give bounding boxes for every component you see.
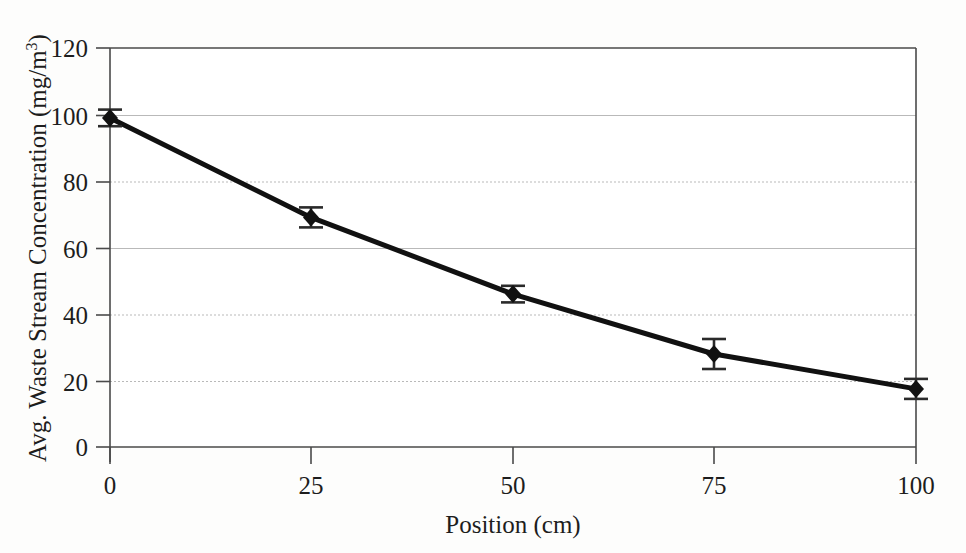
xtick-label-0: 0	[104, 472, 117, 499]
y-axis-title-close-paren: )	[24, 34, 52, 42]
chart-figure: 120 100 80 60 40 20 0 0 25 50 75 100 Pos…	[0, 0, 966, 553]
xtick-label-50: 50	[501, 472, 526, 499]
x-axis-title: Position (cm)	[445, 511, 580, 539]
x-axis-ticks	[110, 447, 916, 464]
y-axis-title-group: Avg. Waste Stream Concentration (mg/m3)	[23, 34, 52, 462]
ytick-label-40: 40	[63, 302, 88, 329]
plot-area-background	[110, 48, 916, 447]
y-axis-title-superscript: 3	[23, 42, 40, 50]
y-axis-ticks	[96, 48, 110, 447]
ytick-label-100: 100	[51, 103, 89, 130]
y-axis-title: Avg. Waste Stream Concentration (mg/m	[24, 50, 52, 462]
ytick-label-120: 120	[51, 35, 89, 62]
ytick-label-80: 80	[63, 169, 88, 196]
xtick-label-25: 25	[299, 472, 324, 499]
ytick-label-20: 20	[63, 369, 88, 396]
ytick-label-0: 0	[76, 434, 89, 461]
xtick-label-100: 100	[897, 472, 935, 499]
chart-svg: 120 100 80 60 40 20 0 0 25 50 75 100 Pos…	[0, 0, 966, 553]
svg-text:Avg. Waste Stream Concentratio: Avg. Waste Stream Concentration (mg/m3)	[23, 34, 52, 462]
xtick-label-75: 75	[702, 472, 727, 499]
ytick-label-60: 60	[63, 236, 88, 263]
